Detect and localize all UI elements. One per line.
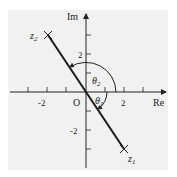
x-tick-label-neg2: -2 (38, 98, 46, 108)
y-tick-label-2: 2 (78, 50, 83, 60)
im-axis-label: Im (67, 11, 78, 22)
re-axis-label: Re (153, 97, 165, 108)
z1-label: z1 (127, 153, 135, 166)
diagram-canvas: Im Re O -2 2 2 -2 z2 z1 θ2 θ1 (0, 0, 177, 177)
complex-plane-figure: Im Re O -2 2 2 -2 z2 z1 θ2 θ1 (0, 0, 177, 177)
y-tick-label-neg2: -2 (70, 126, 78, 136)
x-tick-label-2: 2 (121, 98, 126, 108)
origin-label: O (73, 97, 80, 108)
z2-label: z2 (29, 30, 38, 43)
point-z1-marker (120, 145, 128, 153)
theta2-label: θ2 (92, 75, 101, 88)
point-z2-marker (44, 31, 52, 39)
